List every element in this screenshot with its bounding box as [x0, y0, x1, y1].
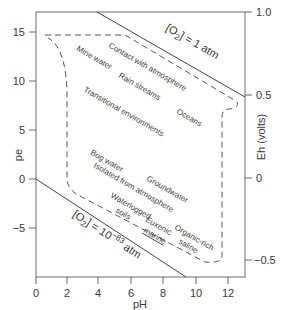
pe-ph-diagram: 15 10 5 0 −5 pe 1.0 0.5 0 −0.5 Eh (volts… — [0, 0, 285, 310]
y-tick-0: 0 — [19, 173, 25, 185]
y-tick-15: 15 — [13, 26, 25, 38]
y-tick-minus5: −5 — [12, 222, 25, 234]
x-tick-4: 4 — [95, 287, 101, 299]
y-axis-title: pe — [12, 149, 24, 161]
y2-tick-0: 0 — [256, 172, 262, 184]
natural-water-boundary — [45, 35, 238, 262]
y-axis-tick-labels: 15 10 5 0 −5 — [12, 26, 25, 234]
y2-axis-ticks — [245, 12, 252, 260]
x-axis-title: pH — [133, 298, 147, 310]
x-tick-2: 2 — [64, 287, 70, 299]
y2-axis-title: Eh (volts) — [255, 114, 267, 160]
x-tick-10: 10 — [190, 287, 202, 299]
x-axis-ticks — [36, 277, 228, 284]
y-axis-ticks — [29, 32, 36, 228]
lower-o2-label: [O2] = 10−83 atm — [69, 207, 144, 263]
y2-tick-minus0.5: −0.5 — [254, 254, 276, 266]
label-oceans: Oceans — [175, 107, 203, 129]
y2-tick-0.5: 0.5 — [256, 89, 271, 101]
upper-o2-label: [O2] = 1 atm — [163, 21, 222, 63]
y-tick-10: 10 — [13, 75, 25, 87]
x-tick-0: 0 — [33, 287, 39, 299]
y2-tick-1.0: 1.0 — [256, 6, 271, 18]
x-tick-12: 12 — [222, 287, 234, 299]
y-tick-5: 5 — [19, 124, 25, 136]
x-tick-8: 8 — [160, 287, 166, 299]
